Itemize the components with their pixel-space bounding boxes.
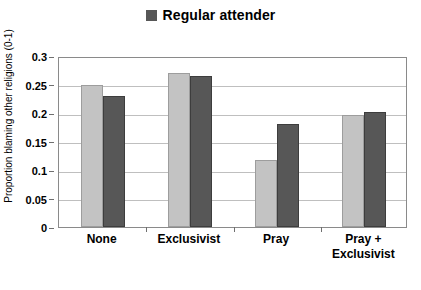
plot-area: [58, 57, 407, 228]
x-axis-tick-label-line: Pray: [233, 232, 320, 247]
y-axis-tick-labels: 00.050.10.150.20.250.3: [0, 57, 54, 228]
chart-legend: Regular attender: [0, 8, 421, 22]
y-axis-tick-label: 0.1: [32, 166, 47, 177]
bar-series1-0: [81, 85, 103, 227]
y-axis-tick-mark: [49, 171, 54, 172]
y-axis-tick-mark: [49, 199, 54, 200]
legend-item-regular-attender: Regular attender: [146, 8, 276, 22]
legend-swatch-regular-attender: [146, 10, 157, 21]
bar-series2-3: [364, 112, 386, 227]
x-axis-tick-label: Exclusivist: [145, 232, 232, 247]
x-axis-tick-label: None: [58, 232, 145, 247]
y-axis-tick-label: 0.2: [32, 109, 47, 120]
bar-series1-1: [168, 73, 190, 227]
y-axis-tick-label: 0.25: [26, 80, 47, 91]
bar-series2-0: [103, 96, 125, 227]
bar-series1-3: [342, 115, 364, 227]
y-axis-tick-label: 0.3: [32, 52, 47, 63]
bar-chart-figure: Regular attender Proportion blaming othe…: [0, 0, 421, 290]
y-axis-tick-label: 0: [41, 223, 47, 234]
y-axis-tick-mark: [49, 228, 54, 229]
x-axis-tick-label: Pray +Exclusivist: [320, 232, 407, 262]
y-axis-tick-label: 0.15: [26, 137, 47, 148]
x-axis-tick-label-line: Pray +: [320, 232, 407, 247]
y-axis-tick-mark: [49, 142, 54, 143]
x-axis-tick-label: Pray: [233, 232, 320, 247]
legend-label-regular-attender: Regular attender: [163, 8, 276, 22]
y-axis-tick-label: 0.05: [26, 194, 47, 205]
y-axis-tick-mark: [49, 114, 54, 115]
x-axis-tick-label-line: None: [58, 232, 145, 247]
y-axis-tick-mark: [49, 57, 54, 58]
bar-series1-2: [255, 160, 277, 227]
x-axis-tick-labels: NoneExclusivistPrayPray +Exclusivist: [58, 232, 407, 288]
bar-series2-1: [190, 76, 212, 227]
x-axis-tick-label-line: Exclusivist: [145, 232, 232, 247]
y-axis-tick-mark: [49, 85, 54, 86]
bar-series2-2: [277, 124, 299, 227]
bars-layer: [59, 58, 406, 227]
x-axis-tick-label-line: Exclusivist: [320, 247, 407, 262]
